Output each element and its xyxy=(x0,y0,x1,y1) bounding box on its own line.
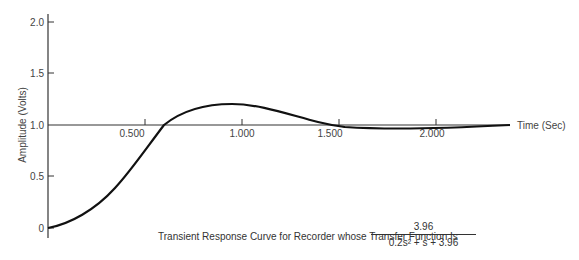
transfer-function-numerator: 3.96 xyxy=(371,221,476,235)
response-chart: 2.0 1.5 1.0 0.5 0 Amplitude (Volts) 0.50… xyxy=(0,0,579,260)
y-tick-label: 1.0 xyxy=(30,120,44,131)
response-curve xyxy=(48,104,510,228)
y-tick-label: 1.5 xyxy=(30,68,44,79)
y-tick-label: 0.5 xyxy=(30,171,44,182)
x-tick-label: 0.500 xyxy=(119,128,144,139)
transfer-function: 3.96 0.2s² + s + 3.96 xyxy=(371,221,476,248)
y-axis-title: Amplitude (Volts) xyxy=(17,87,28,163)
x-ticks xyxy=(145,119,436,125)
x-axis-title: Time (Sec) xyxy=(517,120,566,131)
y-tick-label: 0 xyxy=(38,223,44,234)
x-tick-label: 1.500 xyxy=(317,128,342,139)
x-tick-label: 2.000 xyxy=(419,128,444,139)
x-tick-label: 1.000 xyxy=(229,128,254,139)
y-tick-label: 2.0 xyxy=(30,17,44,28)
transfer-function-denominator: 0.2s² + s + 3.96 xyxy=(371,235,476,248)
